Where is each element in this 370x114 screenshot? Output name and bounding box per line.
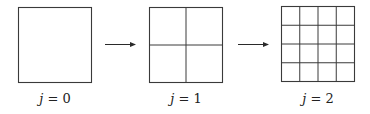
label-value: 0: [62, 91, 70, 106]
label-value: 1: [193, 91, 201, 106]
grid-stage-1: [150, 8, 223, 83]
label-value: 2: [325, 91, 333, 106]
grid-stage-2: [282, 7, 355, 82]
stage-label-2: j = 2: [278, 91, 358, 106]
label-equals: =: [174, 91, 193, 106]
label-equals: =: [43, 91, 62, 106]
stage-label-0: j = 0: [15, 91, 95, 106]
arrow-icon: [238, 42, 269, 47]
arrow-icon: [105, 42, 136, 47]
stage-label-1: j = 1: [146, 91, 226, 106]
grid-stage-0: [19, 8, 92, 83]
label-equals: =: [306, 91, 325, 106]
